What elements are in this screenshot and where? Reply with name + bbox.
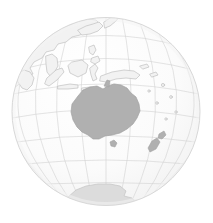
land-pacific-island-5 (165, 118, 167, 120)
land-pacific-island-4 (175, 111, 177, 113)
land-pacific-island-6 (148, 90, 150, 92)
land-pacific-island-2 (170, 96, 173, 99)
globe-map-svg (0, 0, 213, 223)
globe-figure (0, 0, 213, 223)
land-pacific-island-1 (161, 83, 164, 86)
land-pacific-island-3 (156, 102, 159, 105)
land-japan-north (117, 9, 127, 16)
